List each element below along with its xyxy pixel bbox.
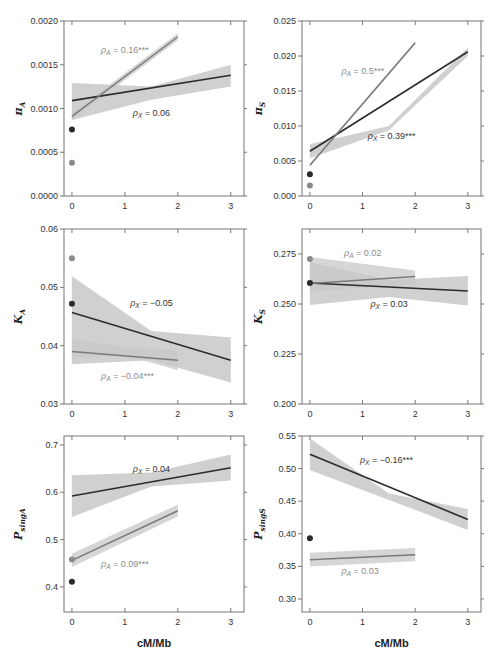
data-point-x [307, 171, 313, 177]
y-tick-label: 0.40 [278, 529, 296, 539]
x-tick-label: 1 [360, 617, 365, 627]
data-point-x [69, 127, 75, 133]
data-point-a [307, 256, 313, 262]
y-axis-label: PsingA [12, 508, 27, 541]
x-tick-label: 3 [465, 201, 470, 211]
panel-k-s: ρX = 0.03ρA = 0.020.2000.2250.2500.27501… [252, 229, 484, 419]
x-tick-label: 1 [122, 409, 127, 419]
x-tick-label: 0 [69, 409, 74, 419]
correlation-label-a: ρA = 0.16*** [100, 45, 149, 56]
y-tick-label: 0.05 [40, 282, 58, 292]
x-tick-label: 0 [69, 617, 74, 627]
x-tick-label: 3 [465, 409, 470, 419]
x-tick-label: 3 [228, 201, 233, 211]
panel-p-sing-s: ρX = −0.16***ρA = 0.030.300.350.400.450.… [252, 431, 484, 649]
y-axis-label: πS [252, 101, 267, 116]
x-tick-label: 1 [360, 409, 365, 419]
correlation-label-x: ρX = −0.05 [129, 298, 173, 309]
x-tick-label: 3 [465, 617, 470, 627]
y-tick-label: 0.6 [45, 487, 58, 497]
y-tick-label: 0.4 [45, 582, 58, 592]
x-tick-label: 1 [360, 201, 365, 211]
x-tick-label: 2 [175, 409, 180, 419]
figure-grid: ρX = 0.06ρA = 0.16***0.00000.00050.00100… [0, 0, 501, 653]
regression-line-a [310, 43, 415, 166]
x-tick-label: 3 [228, 409, 233, 419]
x-axis-label: cM/Mb [374, 637, 409, 649]
correlation-label-a: ρA = 0.5*** [340, 66, 384, 77]
panel-p-sing-a: ρX = 0.04ρA = 0.09***0.40.50.60.70123Psi… [12, 436, 247, 649]
y-tick-label: 0.025 [273, 16, 296, 26]
y-tick-label: 0.200 [273, 399, 296, 409]
correlation-label-a: ρA = 0.09*** [100, 559, 149, 570]
y-tick-label: 0.275 [273, 249, 296, 259]
data-point-a [307, 183, 313, 189]
y-tick-label: 0.35 [278, 561, 296, 571]
y-tick-label: 0.0000 [30, 191, 58, 201]
y-tick-label: 0.005 [273, 156, 296, 166]
y-tick-label: 0.0015 [30, 60, 58, 70]
data-point-x [307, 280, 313, 286]
correlation-label-a: ρA = −0.04*** [100, 371, 155, 382]
y-tick-label: 0.7 [45, 440, 58, 450]
correlation-label-x: ρX = 0.04 [132, 464, 170, 475]
y-tick-label: 0.03 [40, 399, 58, 409]
y-tick-label: 0.30 [278, 594, 296, 604]
panel-k-a: ρX = −0.05ρA = −0.04***0.030.040.050.060… [12, 224, 247, 419]
plot-frame [302, 21, 481, 196]
regression-line-a [72, 511, 178, 561]
x-tick-label: 0 [69, 201, 74, 211]
y-tick-label: 0.55 [278, 431, 296, 441]
data-point-a [69, 160, 75, 166]
correlation-label-x: ρX = 0.06 [132, 108, 170, 119]
correlation-label-x: ρX = −0.16*** [359, 455, 414, 466]
x-tick-label: 2 [413, 409, 418, 419]
y-tick-label: 0.5 [45, 535, 58, 545]
y-axis-label: πA [12, 101, 27, 116]
y-tick-label: 0.225 [273, 349, 296, 359]
y-tick-label: 0.010 [273, 121, 296, 131]
x-tick-label: 0 [307, 201, 312, 211]
y-tick-label: 0.50 [278, 464, 296, 474]
plot-frame [302, 229, 481, 404]
y-tick-label: 0.015 [273, 86, 296, 96]
y-tick-label: 0.04 [40, 341, 58, 351]
x-tick-label: 1 [122, 617, 127, 627]
x-tick-label: 2 [413, 617, 418, 627]
data-point-a [69, 556, 75, 562]
y-tick-label: 0.0010 [30, 104, 58, 114]
confidence-band-x [310, 48, 468, 159]
x-tick-label: 0 [307, 409, 312, 419]
y-axis-label: PsingS [252, 508, 267, 541]
y-axis-label: KA [12, 309, 27, 326]
correlation-label-a: ρA = 0.02 [343, 248, 381, 259]
x-tick-label: 2 [175, 617, 180, 627]
correlation-label-x: ρX = 0.03 [369, 299, 407, 310]
x-tick-label: 2 [413, 201, 418, 211]
y-tick-label: 0.0005 [30, 147, 58, 157]
correlation-label-a: ρA = 0.03 [340, 566, 378, 577]
x-tick-label: 2 [175, 201, 180, 211]
panel-pi-a: ρX = 0.06ρA = 0.16***0.00000.00050.00100… [12, 16, 247, 211]
x-tick-label: 1 [122, 201, 127, 211]
confidence-band-x [72, 276, 231, 382]
data-point-x [69, 579, 75, 585]
x-axis-label: cM/Mb [137, 637, 172, 649]
data-point-x [69, 301, 75, 307]
x-tick-label: 0 [307, 617, 312, 627]
y-tick-label: 0.45 [278, 496, 296, 506]
y-tick-label: 0.0020 [30, 16, 58, 26]
y-axis-label: KS [252, 308, 267, 325]
data-point-a [69, 255, 75, 261]
panel-pi-s: ρX = 0.39***ρA = 0.5***0.0000.0050.0100.… [252, 16, 484, 211]
data-point-x [307, 535, 313, 541]
y-tick-label: 0.020 [273, 51, 296, 61]
x-tick-label: 3 [228, 617, 233, 627]
y-tick-label: 0.06 [40, 224, 58, 234]
y-tick-label: 0.000 [273, 191, 296, 201]
confidence-band-x [310, 439, 468, 530]
y-tick-label: 0.250 [273, 299, 296, 309]
